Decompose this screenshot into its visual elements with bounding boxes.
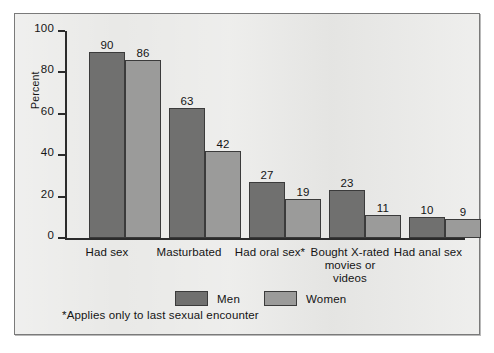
y-tick-40: 40 [58,154,65,156]
legend-item-men[interactable]: Men [175,291,240,306]
y-tick-80: 80 [58,71,65,73]
y-tick-label-80: 80 [41,63,54,75]
bar-value-women-had-anal-sex: 9 [460,206,467,218]
y-axis-line [65,31,67,238]
legend-swatch-women-icon [264,291,297,306]
y-tick-label-60: 60 [41,105,54,117]
bar-value-men-bought-x-rated: 23 [340,177,353,189]
bar-group-had-sex: 90 86 [89,31,165,238]
bar-value-men-had-anal-sex: 10 [420,204,433,216]
bar-men-had-anal-sex[interactable]: 10 [409,217,445,238]
category-label-had-anal-sex-line1: Had anal sex [377,246,479,259]
y-tick-0: 0 [58,237,65,239]
y-tick-label-20: 20 [41,188,54,200]
bar-group-bought-x-rated: 23 11 [329,31,405,238]
y-tick-label-0: 0 [47,229,54,241]
bar-women-bought-x-rated[interactable]: 11 [365,215,401,238]
bar-value-men-had-oral-sex: 27 [260,169,273,181]
bar-value-women-bought-x-rated: 11 [377,202,389,214]
y-tick-100: 100 [58,30,65,32]
legend-item-women[interactable]: Women [264,291,346,306]
legend: Men Women [175,291,346,306]
bar-group-masturbated: 63 42 [169,31,245,238]
y-tick-60: 60 [58,113,65,115]
plot-area: 100 80 60 40 20 0 90 86 63 [65,31,465,238]
bar-value-women-masturbated: 42 [216,138,229,150]
bar-value-women-had-oral-sex: 19 [296,186,309,198]
y-axis-title: Percent [29,71,41,109]
chart-footnote: *Applies only to last sexual encounter [62,309,259,321]
bar-value-men-masturbated: 63 [180,95,193,107]
category-label-bought-x-rated-line3: videos [295,272,405,285]
y-tick-label-40: 40 [41,146,54,158]
y-tick-20: 20 [58,196,65,198]
bar-men-had-sex[interactable]: 90 [89,52,125,238]
bar-men-had-oral-sex[interactable]: 27 [249,182,285,238]
bar-men-bought-x-rated[interactable]: 23 [329,190,365,238]
bar-group-had-anal-sex: 10 9 [409,31,485,238]
bar-women-had-oral-sex[interactable]: 19 [285,199,321,238]
category-label-had-anal-sex: Had anal sex [377,246,479,259]
y-tick-label-100: 100 [34,22,54,34]
bar-men-masturbated[interactable]: 63 [169,108,205,238]
bar-women-had-sex[interactable]: 86 [125,60,161,238]
legend-swatch-men-icon [175,291,208,306]
bar-women-masturbated[interactable]: 42 [205,151,241,238]
figure-panel: Percent 100 80 60 40 20 0 90 86 [14,13,480,335]
legend-label-women: Women [306,293,346,305]
category-label-bought-x-rated-line2: movies or [295,259,405,272]
bar-value-men-had-sex: 90 [100,39,113,51]
x-axis-line [65,238,465,240]
bar-women-had-anal-sex[interactable]: 9 [445,219,481,238]
bar-value-women-had-sex: 86 [136,47,149,59]
legend-label-men: Men [217,293,240,305]
bar-group-had-oral-sex: 27 19 [249,31,325,238]
